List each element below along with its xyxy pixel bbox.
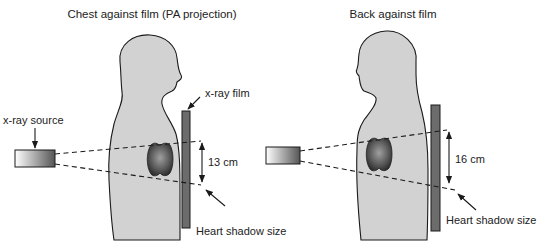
- left-measurement-label: 13 cm: [208, 156, 238, 168]
- left-shadow-label: Heart shadow size: [196, 225, 287, 237]
- left-person-silhouette: [109, 35, 182, 240]
- right-panel: Back against film 16 cm Heart shadow siz…: [266, 8, 537, 240]
- right-measurement-label: 16 cm: [455, 153, 485, 165]
- left-film-label: x-ray film: [205, 87, 250, 99]
- right-shadow-label: Heart shadow size: [446, 214, 537, 226]
- left-xray-source: [15, 150, 55, 167]
- left-source-label: x-ray source: [3, 114, 64, 126]
- right-panel-title: Back against film: [350, 8, 437, 20]
- right-shadow-arrow-icon: [458, 194, 476, 210]
- left-shadow-arrow-icon: [206, 190, 225, 206]
- left-panel-title: Chest against film (PA projection): [67, 8, 236, 20]
- xray-projection-diagram: Chest against film (PA projection) x-ray…: [0, 0, 537, 242]
- right-xray-film: [431, 105, 440, 231]
- left-panel: Chest against film (PA projection) x-ray…: [3, 8, 287, 240]
- film-arrow-icon: [188, 97, 200, 109]
- right-xray-source: [266, 147, 300, 164]
- right-person-silhouette: [356, 31, 428, 240]
- left-heart-icon: [147, 143, 173, 176]
- right-heart-icon: [366, 138, 392, 171]
- left-xray-film: [182, 111, 190, 228]
